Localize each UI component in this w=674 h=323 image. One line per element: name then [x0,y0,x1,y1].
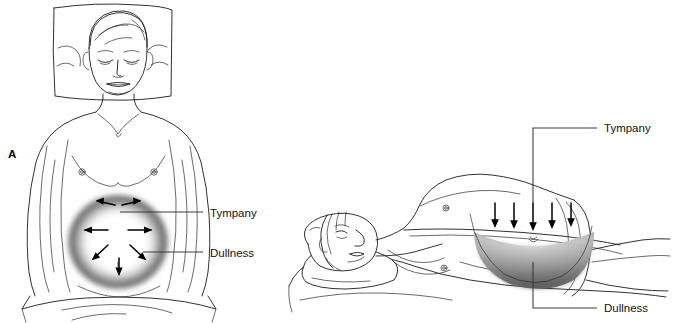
figure-canvas: A Tympany Dullness [0,0,674,323]
callout-label-dullness-right: Dullness [604,302,648,314]
callout-label-tympany-left: Tympany [210,207,257,219]
callout-label-dullness-left: Dullness [210,247,254,259]
panel-letter-a: A [8,148,16,160]
callout-label-tympany-right: Tympany [604,122,651,134]
abdominal-percussion-figure: A Tympany Dullness [0,0,674,323]
head-lateral [304,212,377,271]
dullness-shading-supine [66,193,170,291]
